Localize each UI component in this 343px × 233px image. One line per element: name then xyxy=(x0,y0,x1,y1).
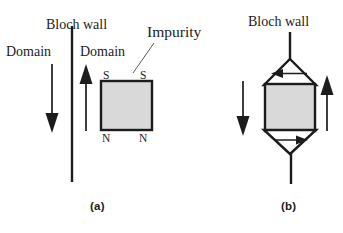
panel-b-caption: (b) xyxy=(281,200,296,212)
panel-a-impurity-square xyxy=(101,81,152,130)
panel-a-domain-left-label: Domain xyxy=(6,45,51,59)
figure-bloch-wall-impurity: Bloch wall Domain Domain Impurity S S N … xyxy=(0,0,343,233)
panel-a-pole-bottom-right: N xyxy=(139,132,147,144)
panel-b-bloch-wall-label: Bloch wall xyxy=(248,15,309,29)
panel-a-left-domain-arrow-down xyxy=(46,64,59,133)
panel-a-domain-right-label: Domain xyxy=(80,45,125,59)
panel-a-impurity-label: Impurity xyxy=(147,24,201,40)
panel-b-lower-closure-triangle xyxy=(264,130,316,154)
panel-b-impurity-square xyxy=(265,84,315,131)
panel-b-right-domain-arrow-up xyxy=(321,75,334,131)
panel-b-upper-closure-triangle xyxy=(264,59,316,85)
panel-a-caption: (a) xyxy=(90,200,105,212)
panel-a-pole-top-right: S xyxy=(140,69,146,81)
panel-a-pole-top-left: S xyxy=(103,69,109,81)
panel-a-right-domain-arrow-up xyxy=(80,64,93,131)
panel-a-pole-bottom-left: N xyxy=(102,132,110,144)
panel-b-left-domain-arrow-down xyxy=(237,81,250,136)
panel-a-bloch-wall-label: Bloch wall xyxy=(46,18,107,32)
